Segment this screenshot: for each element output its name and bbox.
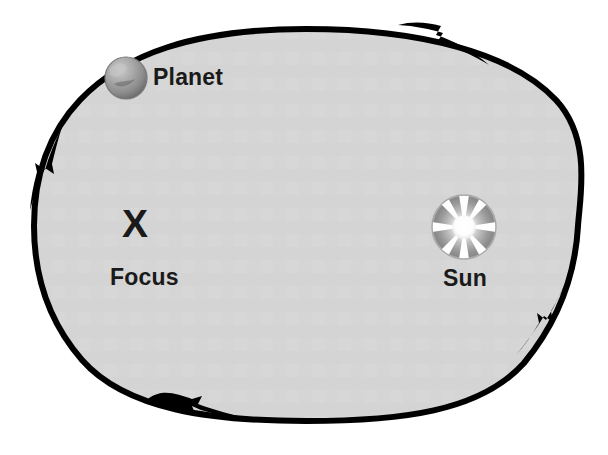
orbit-diagram: Planet X Focus Sun (0, 0, 608, 455)
sun-label: Sun (443, 265, 487, 292)
diagram-canvas (0, 0, 608, 455)
planet-label: Planet (153, 64, 223, 91)
focus-label: Focus (110, 264, 179, 291)
sun-body (432, 195, 496, 259)
focus-x-mark: X (122, 204, 148, 243)
planet-body (105, 57, 147, 99)
